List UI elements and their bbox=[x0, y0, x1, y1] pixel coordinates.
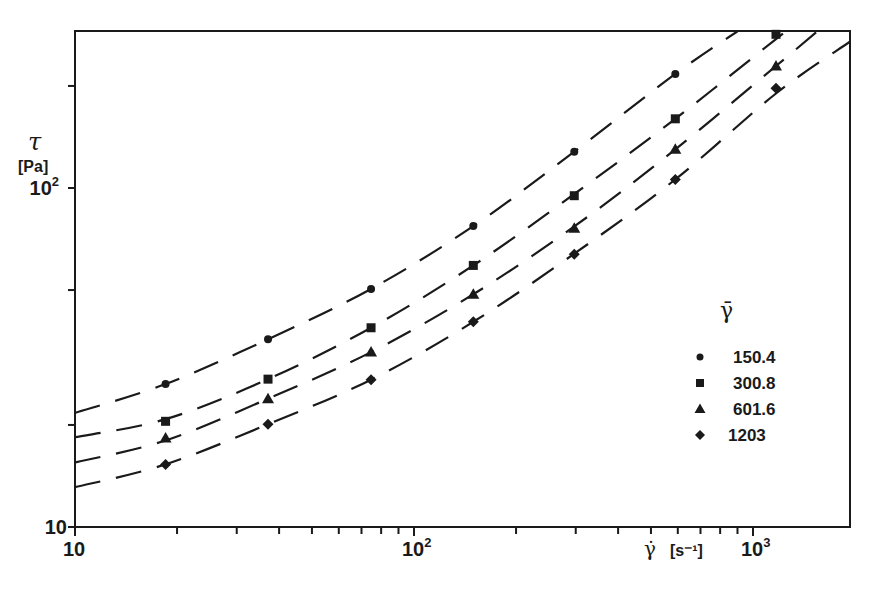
square-marker bbox=[570, 191, 579, 200]
square-marker bbox=[264, 375, 273, 384]
triangle-marker bbox=[695, 404, 706, 414]
square-marker bbox=[161, 417, 170, 426]
x-tick-label: 103 bbox=[741, 535, 770, 560]
y-axis-title: τ [Pa] bbox=[18, 128, 48, 175]
triangle-marker bbox=[365, 346, 377, 357]
legend-entry-label: 601.6 bbox=[733, 400, 776, 419]
fit-curve bbox=[75, 30, 788, 437]
circle-marker bbox=[570, 148, 578, 156]
x-tick-label: 10 bbox=[63, 538, 85, 560]
plot-frame bbox=[75, 31, 850, 527]
x-axis-unit: [s⁻¹] bbox=[670, 542, 703, 559]
circle-marker bbox=[162, 380, 170, 388]
square-marker bbox=[671, 114, 680, 123]
square-marker bbox=[696, 379, 704, 387]
diamond-marker bbox=[366, 374, 377, 385]
legend: γ̄ 150.4300.8601.61203 bbox=[695, 298, 777, 445]
data-points bbox=[160, 30, 782, 470]
diamond-marker bbox=[468, 316, 479, 327]
square-marker bbox=[469, 261, 478, 270]
legend-entry-label: 300.8 bbox=[733, 374, 776, 393]
circle-marker bbox=[697, 354, 704, 361]
square-marker bbox=[367, 323, 376, 332]
fit-curve bbox=[75, 31, 737, 413]
legend-title: γ̄ bbox=[720, 298, 733, 323]
circle-marker bbox=[469, 222, 477, 230]
circle-marker bbox=[264, 335, 272, 343]
chart: 1010210310102 τ [Pa] γ̇ [s⁻¹] γ̄ 150.430… bbox=[0, 0, 892, 591]
y-axis-unit: [Pa] bbox=[18, 158, 48, 175]
x-axis-symbol: γ̇ bbox=[644, 537, 656, 561]
fit-curve bbox=[75, 42, 850, 487]
triangle-marker bbox=[262, 393, 274, 404]
x-axis-title: γ̇ [s⁻¹] bbox=[644, 537, 703, 561]
axis-ticks bbox=[68, 86, 753, 536]
square-marker bbox=[771, 30, 780, 39]
circle-marker bbox=[671, 70, 679, 78]
diamond-marker bbox=[770, 83, 781, 94]
y-axis-symbol: τ bbox=[28, 128, 42, 156]
diamond-marker bbox=[695, 430, 705, 440]
diamond-marker bbox=[160, 459, 171, 470]
legend-entry-label: 150.4 bbox=[733, 348, 776, 367]
diamond-marker bbox=[263, 419, 274, 430]
triangle-marker bbox=[467, 288, 479, 299]
y-tick-label: 102 bbox=[30, 174, 59, 199]
triangle-marker bbox=[160, 432, 172, 443]
y-tick-label: 10 bbox=[45, 516, 67, 538]
axis-tick-labels: 1010210310102 bbox=[30, 174, 771, 560]
legend-entry-label: 1203 bbox=[728, 426, 766, 445]
circle-marker bbox=[367, 285, 375, 293]
x-tick-label: 102 bbox=[402, 535, 431, 560]
